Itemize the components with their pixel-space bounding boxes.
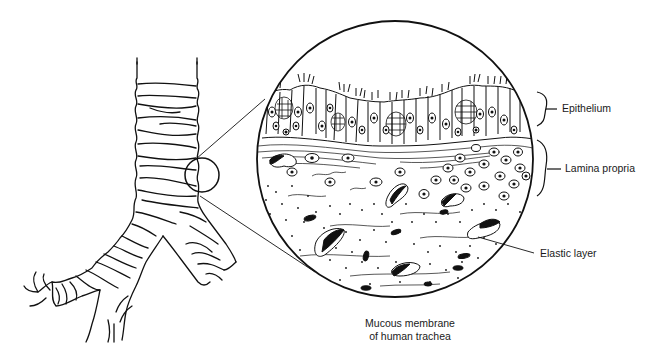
diagram-canvas [0, 0, 655, 358]
elastic-layer-leader [478, 237, 534, 253]
epithelial-nuclei [269, 103, 518, 136]
figure-caption: Mucous membrane of human trachea [345, 317, 475, 343]
magnified-circle [257, 21, 533, 297]
connector-line-top [196, 99, 265, 159]
magnifier-small-circle [185, 158, 219, 192]
basement-fibers [258, 145, 540, 168]
epithelium-brace [537, 92, 547, 126]
label-elastic-layer: Elastic layer [540, 247, 597, 259]
caption-line-2: of human trachea [345, 330, 475, 343]
lamina-fibers [288, 172, 480, 286]
magnified-section [258, 73, 540, 290]
caption-line-1: Mucous membrane [345, 317, 475, 330]
label-lamina-propria: Lamina propria [565, 162, 635, 174]
elastic-layer-vessels [304, 209, 523, 290]
label-epithelium: Epithelium [562, 102, 611, 114]
lamina-propria-layer [270, 145, 530, 208]
lamina-propria-brace [537, 140, 547, 196]
trachea-drawing [24, 58, 236, 342]
lamina-dots [290, 150, 527, 197]
epithelium-layer [262, 73, 540, 146]
